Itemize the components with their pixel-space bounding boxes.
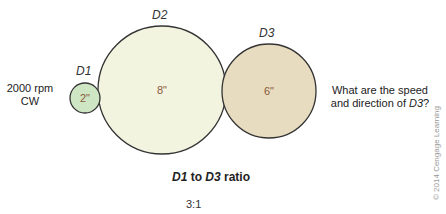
input-speed-block: 2000 rpm CW (2, 82, 58, 108)
d2-label: D2 (152, 8, 167, 22)
d3-label: D3 (259, 26, 274, 40)
question-text: What are the speed and direction of D3? (325, 84, 435, 110)
input-direction: CW (2, 95, 58, 108)
ratio-value: 3:1 (186, 198, 201, 210)
d1-diameter: 2" (80, 92, 90, 104)
ratio-title: D1 to D3 ratio (172, 170, 250, 184)
question-line2: and direction of D3? (325, 97, 435, 110)
d3-diameter: 6" (264, 85, 274, 97)
copyright-notice: © 2014 Cengage Learning (432, 106, 441, 200)
question-line1: What are the speed (325, 84, 435, 97)
d1-label: D1 (76, 64, 91, 78)
input-speed: 2000 rpm (2, 82, 58, 95)
d2-diameter: 8" (157, 84, 167, 96)
